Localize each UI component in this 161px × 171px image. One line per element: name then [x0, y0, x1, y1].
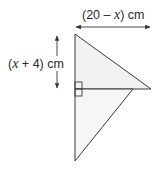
- geometry-diagram: (20 – x) cm (x + 4) cm: [0, 0, 161, 171]
- lower-triangle: [75, 89, 133, 161]
- height-label: (x + 4) cm: [8, 56, 64, 71]
- width-label: (20 – x) cm: [82, 7, 145, 22]
- upper-triangle: [75, 34, 151, 89]
